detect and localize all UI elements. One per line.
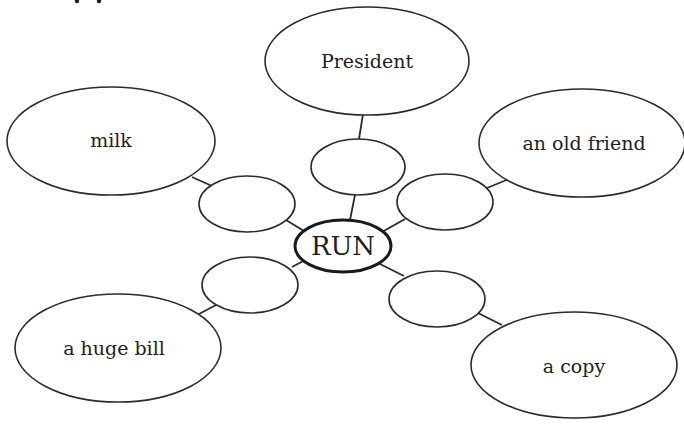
outer-node-label: an old friend [522,132,645,154]
outer-node-president: President [265,7,469,115]
connector-copy-center [378,263,404,276]
blank-node-copy[interactable] [389,271,485,327]
cut-off-heading-fragment [75,0,101,3]
outer-node-milk: milk [7,87,215,195]
connector-president-outer [359,114,363,139]
blank-node-president[interactable] [311,139,405,195]
blank-node-huge-bill[interactable] [202,257,298,313]
connector-old-friend-outer [487,179,509,188]
connector-milk-center [286,220,304,231]
outer-node-old-friend: an old friend [479,89,684,197]
outer-node-copy: a copy [471,312,677,418]
outer-node-label: milk [90,129,132,151]
center-node-run: RUN [295,220,391,272]
connector-milk-outer [192,177,212,186]
outer-node-label: a huge bill [63,337,165,359]
outer-node-label: a copy [543,355,606,377]
connector-president-center [350,195,355,220]
word-web-diagram: President milk an old friend a huge bill… [0,0,684,428]
connector-copy-outer [478,313,502,325]
blank-node-milk[interactable] [199,176,295,232]
outer-node-huge-bill: a huge bill [15,294,221,402]
outer-node-label: President [321,50,414,72]
connector-huge-bill-outer [199,305,216,314]
connector-old-friend-center [382,219,405,232]
blank-node-old-friend[interactable] [397,174,493,230]
center-node-label: RUN [311,231,375,261]
